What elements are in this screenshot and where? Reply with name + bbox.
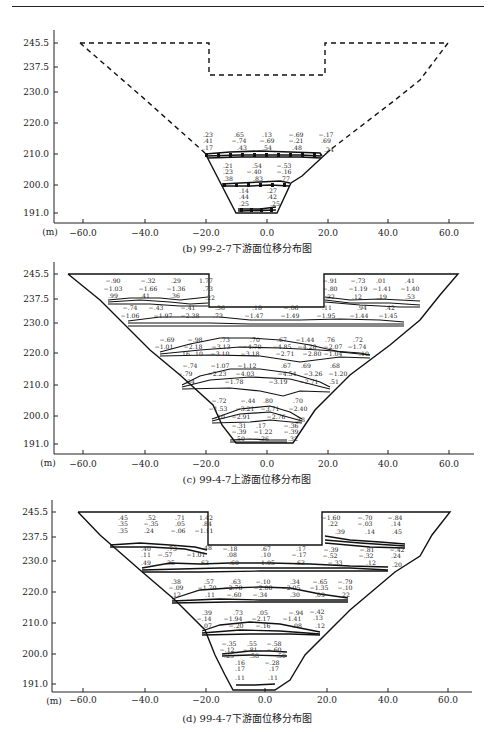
svg-text:230.0: 230.0: [23, 318, 49, 328]
svg-text:.25: .25: [239, 200, 249, 207]
svg-text:.63: .63: [295, 559, 305, 566]
svg-text:.12: .12: [352, 293, 362, 300]
svg-text:.73: .73: [220, 336, 230, 343]
svg-text:.49: .49: [141, 559, 151, 566]
svg-text:20.0: 20.0: [318, 459, 338, 469]
svg-text:−1.01: −1.01: [155, 343, 174, 350]
svg-text:−.74: −.74: [182, 362, 197, 369]
svg-text:200.0: 200.0: [22, 649, 48, 659]
svg-text:.53: .53: [405, 293, 415, 300]
svg-text:.63: .63: [199, 559, 209, 566]
svg-text:.09: .09: [315, 591, 325, 598]
svg-text:.36: .36: [259, 435, 269, 442]
y-tick-labels: 245.5 237.5 230.0 220.0 210.0 200.0 191.…: [22, 507, 48, 689]
svg-text:−.79: −.79: [177, 370, 192, 377]
svg-text:−3.19: −3.19: [269, 378, 288, 385]
svg-text:−40.0: −40.0: [131, 459, 159, 469]
svg-text:220.0: 220.0: [22, 587, 48, 597]
svg-text:−1.12: −1.12: [238, 362, 257, 369]
svg-text:.11: .11: [141, 551, 151, 558]
svg-text:−.06: −.06: [170, 527, 185, 534]
svg-text:245.5: 245.5: [23, 38, 49, 48]
y-tick-labels: 245.5 237.5 230.0 220.0 210.0 200.0 191.…: [23, 38, 49, 218]
svg-text:−1.11: −1.11: [195, 527, 214, 534]
svg-text:−1.44: −1.44: [296, 336, 315, 343]
svg-text:.17: .17: [203, 144, 213, 151]
svg-text:−4.70: −4.70: [243, 343, 262, 350]
svg-text:−.17: −.17: [291, 551, 306, 558]
panel-d-downstream-displacement-99-4-7: 245.5 237.5 230.0 220.0 210.0 200.0 191.…: [0, 488, 494, 732]
svg-text:−.41: −.41: [180, 304, 195, 311]
svg-text:−1.20: −1.20: [329, 370, 348, 377]
svg-text:(m): (m): [42, 227, 58, 237]
svg-text:−2.08: −2.08: [254, 584, 273, 591]
svg-text:−2.40: −2.40: [289, 405, 308, 412]
svg-text:.41: .41: [140, 292, 150, 299]
svg-text:−.40: −.40: [246, 168, 261, 175]
svg-text:0.0: 0.0: [258, 695, 273, 705]
svg-text:.18: .18: [252, 304, 262, 311]
svg-text:−1.53: −1.53: [209, 405, 228, 412]
svg-text:.41: .41: [203, 137, 213, 144]
svg-text:.50: .50: [276, 652, 286, 659]
svg-text:−.44: −.44: [240, 397, 255, 404]
svg-text:20.0: 20.0: [317, 695, 337, 705]
svg-text:−1.95: −1.95: [317, 312, 336, 319]
svg-text:−1.44: −1.44: [350, 312, 369, 319]
svg-text:.60: .60: [229, 559, 239, 566]
svg-text:−60.0: −60.0: [69, 459, 97, 469]
svg-text:−1.45: −1.45: [379, 312, 398, 319]
svg-text:.58: .58: [249, 652, 259, 659]
svg-text:−1.06: −1.06: [121, 312, 140, 319]
panel-c-caption: (c) 99-4-7上游面位移分布图: [0, 471, 494, 486]
svg-text:.67: .67: [277, 336, 287, 343]
svg-text:−.20: −.20: [228, 622, 243, 629]
svg-text:0.0: 0.0: [260, 459, 275, 469]
svg-text:−20.0: −20.0: [192, 695, 220, 705]
svg-text:−.57: −.57: [157, 551, 172, 558]
svg-text:−.03: −.03: [357, 520, 372, 527]
svg-text:.44: .44: [239, 193, 249, 200]
svg-text:−2.38: −2.38: [181, 312, 200, 319]
svg-text:.24: .24: [324, 146, 334, 153]
svg-text:.70: .70: [250, 336, 260, 343]
svg-text:−2.71: −2.71: [300, 378, 319, 385]
svg-text:.54: .54: [262, 144, 272, 151]
svg-text:−2.23: −2.23: [208, 370, 227, 377]
svg-text:−.74: −.74: [122, 304, 137, 311]
svg-text:.20: .20: [392, 561, 402, 568]
svg-text:.07: .07: [202, 622, 212, 629]
panel-c-upstream-displacement-99-4-7: 245.5 237.5 230.0 220.0 210.0 200.0 191.…: [0, 256, 494, 488]
svg-text:−.52: −.52: [322, 552, 337, 559]
svg-text:.01: .01: [376, 277, 386, 284]
svg-text:.35: .35: [165, 559, 175, 566]
svg-text:−1.78: −1.78: [225, 378, 244, 385]
svg-text:.42: .42: [267, 193, 277, 200]
panel-b-plot: 245.5 237.5 230.0 220.0 210.0 200.0 191.…: [0, 0, 494, 256]
panel-b-downstream-displacement-99-2-7: 245.5 237.5 230.0 220.0 210.0 200.0 191.…: [0, 0, 494, 256]
svg-text:.94: .94: [357, 304, 367, 311]
svg-text:210.0: 210.0: [23, 149, 49, 159]
svg-text:−3.13: −3.13: [212, 343, 231, 350]
svg-text:−2.18: −2.18: [184, 343, 203, 350]
svg-text:−.14: −.14: [196, 615, 211, 622]
svg-text:−.69: −.69: [159, 336, 174, 343]
svg-text:.14: .14: [391, 520, 401, 527]
svg-text:−2.71: −2.71: [276, 350, 295, 357]
y-tick-labels: 245.5 237.5 230.0 220.0 210.0 200.0 191.…: [23, 269, 49, 449]
svg-text:.12: .12: [171, 591, 181, 598]
svg-text:.42: .42: [385, 304, 395, 311]
svg-text:−4.54: −4.54: [278, 370, 297, 377]
svg-text:60.0: 60.0: [439, 228, 459, 238]
svg-text:−.43: −.43: [148, 304, 163, 311]
svg-text:−1.03: −1.03: [104, 285, 123, 292]
svg-text:.23: .23: [223, 168, 233, 175]
svg-text:−3.21: −3.21: [236, 405, 255, 412]
dam-outline: [68, 274, 458, 443]
svg-text:−.10: −.10: [337, 584, 352, 591]
svg-text:.17: .17: [235, 665, 245, 672]
svg-text:−1.07: −1.07: [211, 362, 230, 369]
panel-d-plot: 245.5 237.5 230.0 220.0 210.0 200.0 191.…: [0, 488, 494, 732]
svg-text:237.5: 237.5: [23, 62, 49, 72]
svg-text:220.0: 220.0: [23, 118, 49, 128]
